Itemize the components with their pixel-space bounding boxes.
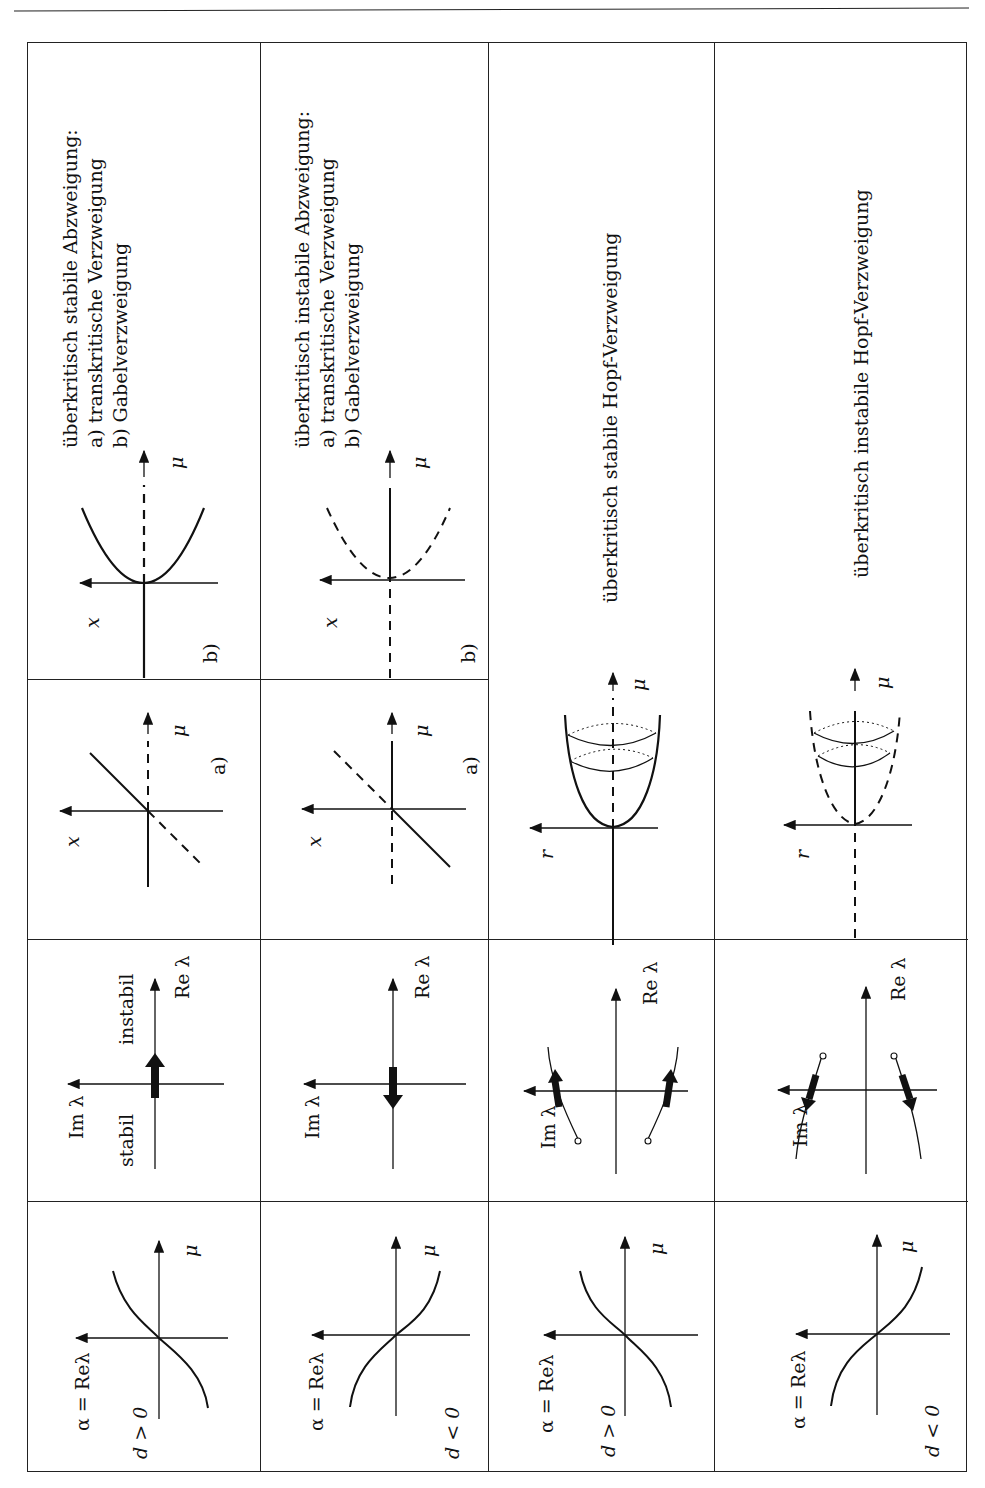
col4-description: überkritisch instabile Hopf-Verzweigung (714, 43, 968, 603)
alpha-axis-label: α = Reλ (534, 1355, 559, 1433)
condition-label: d > 0 (128, 1407, 153, 1459)
mu-axis-label: μ (166, 725, 191, 737)
im-axis-label: Im λ (300, 1095, 325, 1139)
im-axis-label: Im λ (536, 1105, 561, 1149)
unstable-label: instabil (114, 974, 139, 1045)
mu-axis-label: μ (416, 1245, 441, 1257)
diagram-a-label: a) (458, 756, 483, 775)
r-axis-label: r (790, 850, 815, 859)
mu-axis-label: μ (870, 677, 895, 689)
col4-alpha-plot: α = Reλ μ d < 0 (714, 1201, 968, 1473)
mu-axis-label: μ (178, 1245, 203, 1257)
re-axis-label: Re λ (638, 961, 663, 1005)
x-axis-label: x (318, 617, 343, 628)
diagram-b-label: b) (198, 643, 223, 663)
col2-eigenvalue-plot: Im λ Re λ (260, 939, 488, 1201)
condition-label: d < 0 (440, 1407, 465, 1459)
mu-axis-label: μ (407, 457, 432, 469)
col1-eigenvalue-plot: Im λ Re λ stabil instabil (28, 939, 260, 1201)
re-axis-label: Re λ (886, 957, 911, 1001)
diagram-a-label: a) (206, 756, 231, 775)
col1-pitchfork-diagram: x μ b) (28, 373, 260, 679)
mu-axis-label: μ (164, 457, 189, 469)
col1-transcritical-diagram: x μ a) (28, 679, 260, 939)
alpha-axis-label: α = Reλ (304, 1353, 329, 1431)
im-axis-label: Im λ (64, 1095, 89, 1139)
diagram-b-label: b) (456, 643, 481, 663)
col2-alpha-plot: α = Reλ μ d < 0 (260, 1201, 488, 1473)
col4-title: überkritisch instabile Hopf-Verzweigung (849, 189, 874, 578)
col2-pitchfork-diagram: x μ b) (260, 373, 488, 679)
alpha-axis-label: α = Reλ (786, 1351, 811, 1429)
x-axis-label: x (80, 617, 105, 628)
im-axis-label: Im λ (788, 1103, 813, 1147)
alpha-axis-label: α = Reλ (70, 1353, 95, 1431)
re-axis-label: Re λ (410, 955, 435, 999)
page-top-rule (14, 7, 969, 11)
col3-description: überkritisch stabile Hopf-Verzweigung (488, 43, 714, 603)
x-axis-label: x (302, 836, 327, 847)
col3-eigenvalue-plot: Im λ Re λ (488, 939, 714, 1201)
mu-axis-label: μ (409, 725, 434, 737)
col4-hopf-diagram: r μ (714, 603, 968, 939)
re-axis-label: Re λ (170, 955, 195, 999)
x-axis-label: x (60, 836, 85, 847)
bifurcation-table: überkritisch stabile Abzweigung: a) tran… (27, 42, 967, 1472)
mu-axis-label: μ (644, 1243, 669, 1255)
mu-axis-label: μ (626, 679, 651, 691)
col3-title: überkritisch stabile Hopf-Verzweigung (598, 233, 623, 603)
condition-label: d > 0 (596, 1405, 621, 1457)
stable-label: stabil (114, 1114, 139, 1167)
col3-hopf-diagram: r μ (488, 603, 714, 939)
col3-alpha-plot: α = Reλ μ d > 0 (488, 1201, 714, 1473)
col2-transcritical-diagram: x μ a) (260, 679, 488, 939)
condition-label: d < 0 (920, 1405, 945, 1457)
col4-eigenvalue-plot: Im λ Re λ (714, 939, 968, 1201)
mu-axis-label: μ (894, 1241, 919, 1253)
col1-alpha-plot: α = Reλ μ d > 0 (28, 1201, 260, 1473)
r-axis-label: r (534, 850, 559, 859)
